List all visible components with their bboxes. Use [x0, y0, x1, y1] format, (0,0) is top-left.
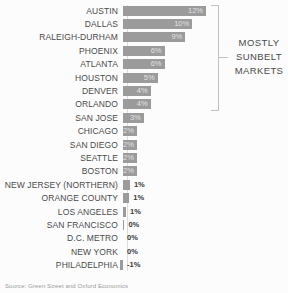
value-label: 10%: [174, 19, 189, 29]
category-label: SEATTLE: [0, 153, 123, 163]
bar-area: 1%: [123, 193, 288, 203]
sunbelt-bracket-bottom-tick: [211, 110, 219, 111]
bar: [123, 207, 126, 217]
category-label: ORLANDO: [0, 99, 123, 109]
value-label: 2%: [123, 126, 134, 136]
bar-area: 4%: [123, 86, 288, 96]
bar-area: 2%: [123, 166, 288, 176]
category-label: ATLANTA: [0, 59, 123, 69]
chart-row: ORANGE COUNTY1%: [0, 191, 288, 204]
bar-area: 4%: [123, 99, 288, 109]
chart-row: NEW JERSEY (NORTHERN)1%: [0, 178, 288, 191]
value-label: 0%: [127, 247, 138, 257]
bar-area: 2%: [123, 126, 288, 136]
value-label: -1%: [127, 260, 140, 270]
chart-row: SEATTLE2%: [0, 151, 288, 164]
bar-area: 2%: [123, 153, 288, 163]
chart-row: SAN FRANCISCO0%: [0, 218, 288, 231]
value-label: 1%: [130, 207, 141, 217]
bar-chart: AUSTIN12%DALLAS10%RALEIGH-DURHAM9%PHOENI…: [0, 0, 288, 293]
sunbelt-bracket-top-tick: [211, 5, 219, 6]
chart-row: NEW YORK0%: [0, 245, 288, 258]
chart-row: DENVER4%: [0, 84, 288, 97]
bar-area: 10%: [123, 19, 288, 29]
value-label: 2%: [123, 140, 134, 150]
bar-area: 1%: [123, 207, 288, 217]
category-label: DENVER: [0, 86, 123, 96]
category-label: NEW JERSEY (NORTHERN): [0, 180, 123, 190]
bar-area: 0%: [123, 247, 288, 257]
category-label: ORANGE COUNTY: [0, 193, 123, 203]
source-note: Source: Green Street and Oxford Economic…: [5, 283, 128, 289]
sunbelt-bracket-mid-tick: [219, 57, 228, 58]
value-label: 2%: [123, 166, 134, 176]
value-label: 6%: [151, 46, 162, 56]
bar: [120, 260, 123, 270]
chart-row: LOS ANGELES1%: [0, 205, 288, 218]
category-label: PHILADELPHIA: [0, 260, 123, 270]
category-label: CHICAGO: [0, 126, 123, 136]
bar-area: 2%: [123, 140, 288, 150]
chart-row: ORLANDO4%: [0, 98, 288, 111]
chart-row: D.C. METRO0%: [0, 232, 288, 245]
category-label: PHOENIX: [0, 46, 123, 56]
annotation-line: SUNBELT: [230, 50, 288, 64]
chart-row: DALLAS10%: [0, 17, 288, 30]
chart-row: PHILADELPHIA-1%: [0, 258, 288, 271]
chart-row: CHICAGO2%: [0, 125, 288, 138]
sunbelt-bracket-line: [218, 5, 219, 111]
value-label: 6%: [151, 59, 162, 69]
bar: [123, 220, 124, 230]
value-label: 9%: [171, 32, 182, 42]
value-label: 1%: [134, 180, 145, 190]
value-label: 5%: [144, 73, 155, 83]
category-label: D.C. METRO: [0, 233, 123, 243]
bar-area: 0%: [123, 233, 288, 243]
category-label: LOS ANGELES: [0, 207, 123, 217]
value-label: 4%: [137, 99, 148, 109]
chart-row: AUSTIN12%: [0, 4, 288, 17]
value-label: 0%: [128, 220, 139, 230]
value-label: 1%: [133, 193, 144, 203]
bar-area: 3%: [123, 113, 288, 123]
category-label: SAN JOSE: [0, 113, 123, 123]
bar-area: 1%: [123, 180, 288, 190]
category-label: SAN FRANCISCO: [0, 220, 123, 230]
value-label: 4%: [137, 86, 148, 96]
category-label: BOSTON: [0, 166, 123, 176]
chart-row: SAN JOSE3%: [0, 111, 288, 124]
bar: [123, 193, 129, 203]
bar-area: 12%: [123, 6, 288, 16]
bar: [123, 180, 130, 190]
category-label: SAN DIEGO: [0, 140, 123, 150]
category-label: AUSTIN: [0, 6, 123, 16]
chart-row: BOSTON2%: [0, 165, 288, 178]
bar-area: 0%: [123, 220, 288, 230]
value-label: 3%: [130, 113, 141, 123]
category-label: RALEIGH-DURHAM: [0, 32, 123, 42]
bar-area: -1%: [123, 260, 288, 270]
chart-row: SAN DIEGO2%: [0, 138, 288, 151]
category-label: DALLAS: [0, 19, 123, 29]
category-label: NEW YORK: [0, 247, 123, 257]
value-label: 12%: [188, 6, 203, 16]
sunbelt-annotation: MOSTLY SUNBELT MARKETS: [230, 36, 288, 78]
annotation-line: MOSTLY: [230, 36, 288, 50]
value-label: 2%: [123, 153, 134, 163]
category-label: HOUSTON: [0, 73, 123, 83]
annotation-line: MARKETS: [230, 64, 288, 78]
value-label: 0%: [127, 233, 138, 243]
